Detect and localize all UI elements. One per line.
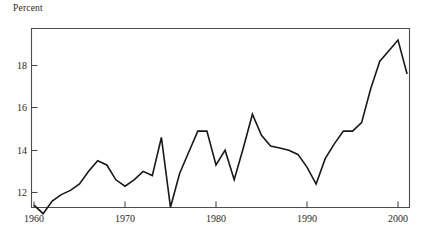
y-axis-ticks xyxy=(32,66,38,193)
y-tick-label-18: 18 xyxy=(17,60,27,71)
plot-frame xyxy=(32,29,410,208)
x-tick-label-1960: 1960 xyxy=(24,213,44,224)
y-tick-label-12: 12 xyxy=(17,187,27,198)
data-series-line xyxy=(34,40,407,214)
x-tick-label-1980: 1980 xyxy=(206,213,226,224)
x-axis-tick-labels: 1960 1970 1980 1990 2000 xyxy=(24,213,408,224)
chart-figure: Percent 18 16 14 12 1960 19 xyxy=(0,0,426,252)
x-tick-label-1990: 1990 xyxy=(297,213,317,224)
x-axis-ticks xyxy=(34,202,398,208)
line-chart-plot: 18 16 14 12 1960 1970 1980 1990 2000 xyxy=(0,0,426,252)
y-tick-label-16: 16 xyxy=(17,102,27,113)
x-tick-label-2000: 2000 xyxy=(388,213,408,224)
x-tick-label-1970: 1970 xyxy=(115,213,135,224)
y-axis-tick-labels: 18 16 14 12 xyxy=(17,60,27,198)
y-tick-label-14: 14 xyxy=(17,145,27,156)
